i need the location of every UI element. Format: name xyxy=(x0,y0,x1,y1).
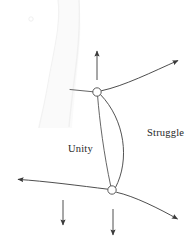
arrow-upper-right xyxy=(101,61,178,91)
diagram-svg xyxy=(0,0,194,244)
unity-label: Unity xyxy=(68,143,93,155)
struggle-label: Struggle xyxy=(147,127,184,139)
struggle-arc xyxy=(101,95,124,188)
unity-line xyxy=(98,96,111,186)
diagram-canvas: Unity Struggle xyxy=(0,0,194,244)
background-artifact xyxy=(29,0,81,128)
upper-node xyxy=(93,88,101,96)
arrow-left xyxy=(18,179,108,189)
lower-node xyxy=(108,186,116,194)
arrow-lower-right xyxy=(116,192,177,219)
